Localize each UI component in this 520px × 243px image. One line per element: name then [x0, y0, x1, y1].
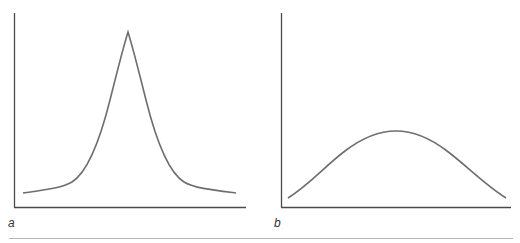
panel-b-curve [288, 131, 506, 198]
panel-b-label: b [274, 216, 281, 230]
figure-canvas [0, 0, 520, 243]
panel-a-curve [23, 32, 236, 193]
panel-b [281, 13, 511, 208]
panel-a-label: a [8, 216, 15, 230]
panel-a [14, 13, 246, 208]
